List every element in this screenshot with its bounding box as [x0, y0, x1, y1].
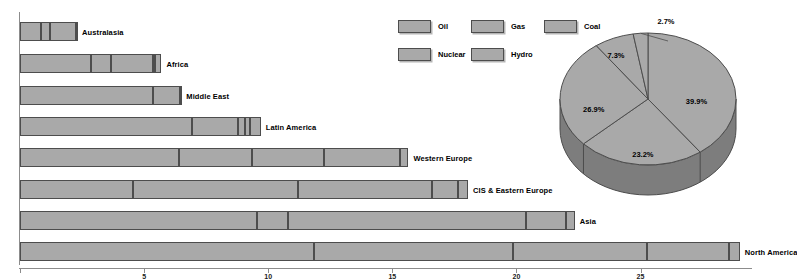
pie-slice-label: 23.2%: [632, 149, 653, 158]
bar-category-label: North America: [745, 247, 797, 256]
bar-segment-oil: [20, 242, 314, 261]
bar-segment-gas: [192, 117, 238, 136]
bar-category-label: Africa: [166, 59, 188, 68]
pie-slice-label: 7.3%: [607, 50, 624, 59]
bar-segment-coal: [288, 211, 526, 230]
bar-category-label: Latin America: [266, 122, 317, 131]
bar-segment-coal: [513, 242, 647, 261]
bar-segment-gas: [41, 22, 50, 41]
bar-category-label: Asia: [580, 216, 596, 225]
bar-segment-hydro: [400, 148, 409, 167]
legend-label: Nuclear: [438, 50, 466, 59]
bar-segment-coal: [298, 180, 432, 199]
x-axis-tick-label: 10: [264, 273, 272, 280]
bar-segment-oil: [20, 148, 179, 167]
x-axis-line: [19, 268, 752, 269]
legend-label: Gas: [511, 22, 525, 31]
legend-label: Oil: [438, 22, 448, 31]
bar-segment-hydro: [729, 242, 740, 261]
bar-segment-nuclear: [647, 242, 729, 261]
legend-item-nuclear[interactable]: Nuclear: [398, 48, 466, 61]
legend-item-gas[interactable]: Gas: [471, 20, 525, 33]
bar-segment-gas: [153, 86, 180, 105]
pie-slice-label: 39.9%: [686, 97, 707, 106]
bar-category-label: CIS & Eastern Europe: [473, 185, 553, 194]
pie-slice-label: 26.9%: [583, 105, 604, 114]
bar-segment-hydro: [76, 22, 78, 41]
bar-category-label: Middle East: [186, 91, 229, 100]
bar-segment-oil: [20, 22, 41, 41]
bar-segment-coal: [252, 148, 324, 167]
bar-segment-hydro: [250, 117, 261, 136]
legend-swatch: [398, 48, 431, 61]
bar-segment-hydro: [155, 54, 161, 73]
pie-slice-label: 2.7%: [657, 17, 674, 26]
bar-category-label: Western Europe: [413, 153, 472, 162]
bar-segment-coal: [180, 86, 182, 105]
bar-segment-hydro: [566, 211, 575, 230]
x-axis-tick-label: 5: [142, 273, 146, 280]
bar-segment-nuclear: [324, 148, 400, 167]
bar-segment-nuclear: [432, 180, 458, 199]
bar-segment-gas: [91, 54, 111, 73]
legend-item-oil[interactable]: Oil: [398, 20, 448, 33]
x-axis-tick: [20, 268, 21, 273]
bar-segment-hydro: [458, 180, 468, 199]
bar-segment-gas: [314, 242, 513, 261]
pie-chart: 39.9%23.2%26.9%7.3%2.7%: [556, 14, 741, 209]
legend-item-hydro[interactable]: Hydro: [471, 48, 533, 61]
x-axis-tick-label: 25: [637, 273, 645, 280]
legend-swatch: [398, 20, 431, 33]
bar-segment-gas: [179, 148, 252, 167]
legend-label: Hydro: [511, 50, 533, 59]
bar-segment-coal: [50, 22, 76, 41]
bar-segment-gas: [133, 180, 298, 199]
bar-category-label: Australasia: [82, 27, 124, 36]
bar-segment-nuclear: [526, 211, 566, 230]
x-axis-tick-label: 15: [388, 273, 396, 280]
bar-segment-oil: [20, 86, 153, 105]
bar-segment-oil: [20, 117, 192, 136]
bar-segment-gas: [257, 211, 288, 230]
bar-segment-coal: [111, 54, 153, 73]
legend-swatch: [471, 48, 504, 61]
bar-segment-oil: [20, 211, 257, 230]
legend-swatch: [471, 20, 504, 33]
bar-segment-oil: [20, 54, 91, 73]
bar-segment-oil: [20, 180, 133, 199]
x-axis-tick-label: 20: [512, 273, 520, 280]
